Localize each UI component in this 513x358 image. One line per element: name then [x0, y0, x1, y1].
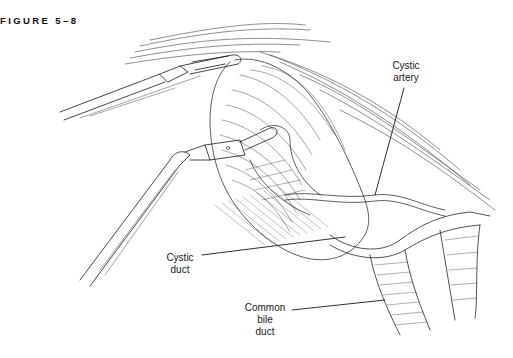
shadow-hatching: [215, 187, 328, 245]
label-line: Common: [240, 302, 290, 314]
common-bile-duct-leader: [292, 300, 385, 310]
cystic-artery-vessel: [285, 194, 445, 216]
liver-edge-lines: [125, 23, 495, 210]
label-line: Cystic: [160, 252, 200, 264]
label-line: bile: [240, 314, 290, 326]
upper-grasper: [60, 55, 241, 120]
label-line: Cystic: [385, 60, 427, 72]
gallbladder-neck: [245, 125, 320, 215]
label-line: duct: [240, 326, 290, 338]
label-cystic-artery: Cystic artery: [385, 60, 427, 84]
label-line: artery: [385, 72, 427, 84]
label-line: duct: [160, 264, 200, 276]
label-cystic-duct: Cystic duct: [160, 252, 200, 276]
ducts: [330, 212, 490, 335]
cystic-duct-leader: [202, 237, 345, 255]
cystic-artery-leader: [375, 88, 404, 195]
label-common-bile-duct: Common bile duct: [240, 302, 290, 338]
